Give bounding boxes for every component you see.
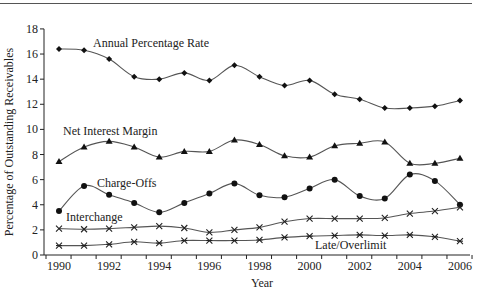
x-tick-label: 2004 xyxy=(398,259,422,273)
circle-marker xyxy=(131,200,137,206)
x-tick-label: 2006 xyxy=(448,259,472,273)
diamond-marker xyxy=(457,98,463,104)
diamond-marker xyxy=(106,56,112,62)
x-tick-label: 2000 xyxy=(298,259,322,273)
x-tick-label: 1998 xyxy=(247,259,271,273)
circle-marker xyxy=(231,180,237,186)
y-tick-label: 10 xyxy=(26,122,38,136)
circle-marker xyxy=(106,192,112,198)
diamond-marker xyxy=(407,105,413,111)
diamond-marker xyxy=(357,96,363,102)
series-label: Net Interest Margin xyxy=(63,124,157,138)
diamond-marker xyxy=(382,105,388,111)
y-tick-label: 2 xyxy=(32,223,38,237)
circle-marker xyxy=(256,192,262,198)
circle-marker xyxy=(81,183,87,189)
circle-marker xyxy=(206,190,212,196)
x-tick-label: 1994 xyxy=(147,259,171,273)
x-tick-label: 1992 xyxy=(97,259,121,273)
x-tick-label: 1996 xyxy=(197,259,221,273)
triangle-marker xyxy=(56,158,63,164)
triangle-marker xyxy=(456,155,463,161)
circle-marker xyxy=(332,177,338,183)
y-tick-label: 4 xyxy=(32,198,38,212)
y-tick-label: 12 xyxy=(26,97,38,111)
triangle-marker xyxy=(406,160,413,166)
circle-marker xyxy=(156,209,162,215)
circle-marker xyxy=(307,185,313,191)
diamond-marker xyxy=(256,74,262,80)
circle-marker xyxy=(407,172,413,178)
circle-marker xyxy=(357,193,363,199)
series-label: Interchange xyxy=(66,210,123,224)
series-annual-percentage-rate xyxy=(56,46,463,111)
circle-marker xyxy=(181,200,187,206)
diamond-marker xyxy=(432,103,438,109)
diamond-marker xyxy=(307,77,313,83)
y-tick-label: 16 xyxy=(26,47,38,61)
circle-marker xyxy=(56,208,62,214)
series-label: Late/Overlimit xyxy=(315,238,387,252)
x-tick-label: 2002 xyxy=(348,259,372,273)
series-label: Annual Percentage Rate xyxy=(93,36,209,50)
circle-marker xyxy=(382,195,388,201)
y-tick-label: 14 xyxy=(26,72,38,86)
diamond-marker xyxy=(332,91,338,97)
y-tick-label: 0 xyxy=(32,248,38,262)
diamond-marker xyxy=(206,77,212,83)
series-label: Charge-Offs xyxy=(97,176,157,190)
diamond-marker xyxy=(156,76,162,82)
triangle-marker xyxy=(106,138,113,144)
diamond-marker xyxy=(282,82,288,88)
y-axis-label: Percentage of Outstanding Receivables xyxy=(2,48,16,237)
x-tick-label: 1990 xyxy=(47,259,71,273)
circle-marker xyxy=(282,194,288,200)
series-late-overlimit xyxy=(56,232,463,249)
series-net-interest-margin xyxy=(56,137,464,166)
x-axis-label: Year xyxy=(251,276,273,290)
y-tick-label: 8 xyxy=(32,148,38,162)
diamond-marker xyxy=(181,70,187,76)
diamond-marker xyxy=(56,46,62,52)
circle-marker xyxy=(432,178,438,184)
y-tick-label: 18 xyxy=(26,22,38,36)
line-chart: 0246810121416181990199219941996199820002… xyxy=(0,0,481,301)
diamond-marker xyxy=(231,62,237,68)
y-tick-label: 6 xyxy=(32,173,38,187)
diamond-marker xyxy=(131,74,137,80)
diamond-marker xyxy=(81,47,87,53)
